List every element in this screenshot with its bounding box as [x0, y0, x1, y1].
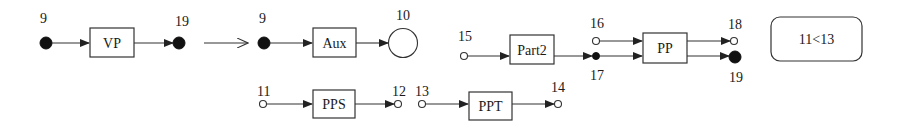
constraint-label: 11<13 — [799, 32, 834, 47]
node-label-16: 16 — [590, 16, 604, 31]
node-label-18: 18 — [728, 17, 742, 32]
filled-node-icon — [173, 37, 185, 49]
node-label-9: 9 — [40, 11, 47, 26]
rule-ppt: 13 PPT 14 — [415, 80, 565, 120]
pp-box-label: PP — [657, 41, 673, 56]
open-node-icon — [419, 101, 426, 108]
node-label-19: 19 — [175, 14, 189, 29]
rule-pps: 11 PPS 12 — [257, 84, 406, 118]
pps-box-label: PPS — [322, 97, 345, 112]
filled-node-icon — [729, 51, 741, 63]
filled-node-icon — [40, 37, 52, 49]
node-label-9: 9 — [259, 11, 266, 26]
node-label-12: 12 — [392, 84, 406, 99]
open-node-icon — [395, 101, 402, 108]
node-label-13: 13 — [415, 84, 429, 99]
open-node-icon — [731, 38, 738, 45]
rule-pp: 16 17 PP 18 19 — [590, 16, 743, 85]
node-label-19: 19 — [729, 70, 743, 85]
rule-diagram: 9 VP 19 9 Aux 10 15 Part2 16 17 — [0, 0, 900, 129]
filled-node-icon — [258, 37, 270, 49]
ppt-box-label: PPT — [478, 99, 503, 114]
small-filled-node-icon — [593, 53, 600, 60]
rule-part2: 15 Part2 — [458, 29, 592, 64]
open-node-icon — [593, 38, 600, 45]
part2-box-label: Part2 — [517, 43, 547, 58]
node-label-17: 17 — [590, 68, 604, 83]
large-open-circle-icon — [389, 29, 418, 58]
constraint: 11<13 — [771, 17, 862, 61]
node-label-10: 10 — [396, 8, 410, 23]
open-node-icon — [260, 101, 267, 108]
open-node-icon — [555, 101, 562, 108]
open-node-icon — [461, 53, 468, 60]
aux-box-label: Aux — [322, 36, 346, 51]
vp-box-label: VP — [103, 36, 121, 51]
node-label-14: 14 — [551, 80, 565, 95]
node-label-11: 11 — [257, 84, 270, 99]
rule-aux: 9 Aux 10 — [258, 8, 418, 58]
rule-vp: 9 VP 19 — [40, 11, 189, 57]
node-label-15: 15 — [458, 29, 472, 44]
